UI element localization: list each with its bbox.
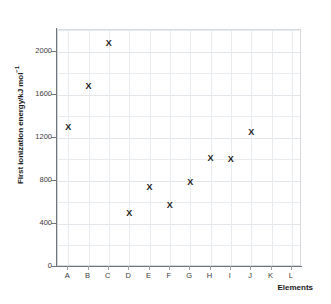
y-axis-tick-mark — [51, 51, 56, 52]
x-axis-tick-label-a: A — [60, 271, 74, 280]
gridline-horizontal — [58, 138, 300, 139]
x-axis-tick-mark — [271, 266, 272, 270]
y-axis-line — [56, 28, 57, 267]
gridline-vertical — [109, 30, 110, 265]
y-axis-tick-mark — [51, 137, 56, 138]
gridline-vertical — [129, 30, 130, 265]
plot-area: XXXXXXXXXX — [57, 29, 301, 266]
gridline-horizontal — [58, 30, 300, 31]
y-axis-tick-mark — [51, 94, 56, 95]
gridline-horizontal — [58, 95, 300, 96]
y-axis-tick-mark — [51, 223, 56, 224]
x-axis-tick-label-g: G — [182, 271, 196, 280]
data-point-d: X — [126, 209, 132, 218]
x-axis-tick-mark — [149, 266, 150, 270]
x-axis-tick-label-l: L — [284, 271, 298, 280]
gridline-vertical — [292, 30, 293, 265]
data-point-c: X — [106, 38, 112, 47]
data-point-j: X — [248, 128, 254, 137]
x-axis-tick-label-i: I — [223, 271, 237, 280]
y-axis-tick-label: 2000 — [26, 47, 52, 55]
y-axis-tick-mark — [51, 266, 56, 267]
y-axis-tick-label: 800 — [26, 176, 52, 184]
y-axis-tick-label: 400 — [26, 219, 52, 227]
data-point-h: X — [207, 154, 213, 163]
x-axis-tick-label-d: D — [121, 271, 135, 280]
y-axis-tick-label: 1600 — [26, 90, 52, 98]
x-axis-tick-mark — [291, 266, 292, 270]
gridline-vertical — [150, 30, 151, 265]
x-axis-tick-mark — [250, 266, 251, 270]
gridline-horizontal — [58, 116, 300, 117]
gridline-vertical — [170, 30, 171, 265]
x-axis-tick-label-j: J — [243, 271, 257, 280]
gridline-horizontal — [58, 73, 300, 74]
gridline-vertical — [251, 30, 252, 265]
x-axis-tick-mark — [169, 266, 170, 270]
data-point-i: X — [228, 155, 234, 164]
x-axis-tick-mark — [67, 266, 68, 270]
gridline-vertical — [272, 30, 273, 265]
y-axis-tick-mark — [51, 180, 56, 181]
gridline-horizontal — [58, 181, 300, 182]
y-axis-tick-labels: 0400800120016002000 — [24, 0, 52, 304]
data-point-b: X — [85, 82, 91, 91]
gridline-vertical — [231, 30, 232, 265]
gridline-vertical — [68, 30, 69, 265]
x-axis-tick-mark — [230, 266, 231, 270]
gridline-horizontal — [58, 202, 300, 203]
x-axis-tick-mark — [108, 266, 109, 270]
data-point-g: X — [187, 177, 193, 186]
chart-figure: First ionization energy/kJ mol−1 0400800… — [0, 0, 331, 304]
gridline-vertical — [89, 30, 90, 265]
gridline-vertical — [211, 30, 212, 265]
x-axis-tick-label-h: H — [203, 271, 217, 280]
x-axis-line — [56, 266, 302, 267]
gridline-horizontal — [58, 52, 300, 53]
x-axis-title: Elements — [0, 283, 313, 293]
y-axis-title-superscript: −1 — [14, 66, 20, 73]
x-axis-tick-mark — [88, 266, 89, 270]
y-axis-tick-label: 1200 — [26, 133, 52, 141]
data-point-e: X — [146, 183, 152, 192]
x-axis-tick-label-b: B — [81, 271, 95, 280]
x-axis-tick-mark — [128, 266, 129, 270]
data-point-a: X — [65, 122, 71, 131]
x-axis-tick-label-c: C — [101, 271, 115, 280]
gridline-horizontal — [58, 245, 300, 246]
x-axis-tick-label-k: K — [264, 271, 278, 280]
y-axis-tick-label: 0 — [26, 262, 52, 270]
data-point-f: X — [167, 200, 173, 209]
x-axis-tick-mark — [189, 266, 190, 270]
gridline-horizontal — [58, 159, 300, 160]
x-axis-tick-label-f: F — [162, 271, 176, 280]
x-axis-tick-label-e: E — [142, 271, 156, 280]
gridline-vertical — [190, 30, 191, 265]
x-axis-tick-mark — [210, 266, 211, 270]
gridline-horizontal — [58, 224, 300, 225]
